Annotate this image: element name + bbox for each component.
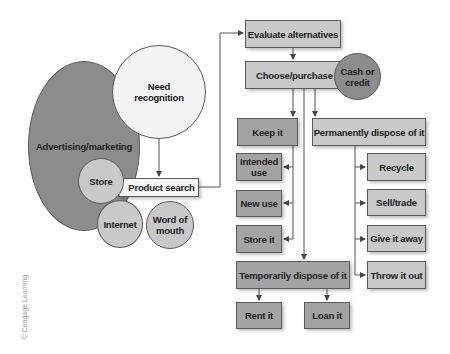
store-it-box: Store it <box>236 225 282 253</box>
copyright-credit: © Cengage Learning <box>21 280 28 340</box>
recycle-box: Recycle <box>367 153 426 181</box>
give-it-away-box: Give it away <box>367 225 426 252</box>
internet-circle: Internet <box>97 200 143 248</box>
store-circle: Store <box>78 158 124 204</box>
new-use-box: New use <box>236 190 282 217</box>
evaluate-alternatives-box: Evaluate alternatives <box>245 20 341 48</box>
advertising-label: Advertising/marketing <box>36 141 132 152</box>
intended-use-box: Intended use <box>236 153 282 181</box>
product-search-box: Product search <box>118 178 199 197</box>
sell-trade-box: Sell/trade <box>367 189 426 216</box>
temporarily-dispose-box: Temporarily dispose of it <box>236 261 350 289</box>
permanently-dispose-box: Permanently dispose of it <box>312 118 426 146</box>
cash-or-credit-circle: Cash or credit <box>334 53 381 100</box>
throw-it-out-box: Throw it out <box>367 261 426 289</box>
loan-it-box: Loan it <box>304 302 350 329</box>
need-recognition-circle: Need recognition <box>112 45 206 139</box>
rent-it-box: Rent it <box>236 302 282 329</box>
keep-it-box: Keep it <box>237 118 298 146</box>
choose-purchase-box: Choose/purchase <box>245 61 345 89</box>
word-of-mouth-circle: Word of mouth <box>146 201 194 249</box>
